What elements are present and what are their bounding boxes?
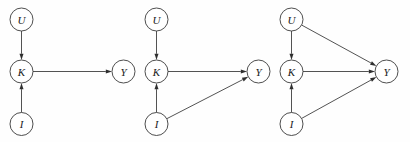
node-label-U: U: [153, 14, 162, 26]
node-I: I: [10, 113, 33, 136]
node-label-U: U: [288, 14, 297, 26]
node-label-K: K: [287, 66, 296, 78]
dag-panel-2: UKIY: [145, 8, 270, 136]
arrowhead-I-to-K: [290, 83, 294, 89]
edge-I-to-Y: [302, 77, 377, 118]
edge-U-to-Y: [302, 25, 377, 66]
edge-I-to-K: [290, 83, 294, 113]
node-U: U: [280, 8, 303, 31]
edge-U-to-K: [155, 31, 159, 60]
arrowhead-U-to-K: [290, 54, 294, 60]
edge-K-to-Y: [303, 70, 375, 74]
edge-K-to-Y: [168, 70, 247, 74]
node-Y: Y: [112, 60, 135, 83]
arrowhead-I-to-K: [20, 83, 24, 89]
arrowhead-I-to-Y: [242, 77, 248, 82]
arrowhead-K-to-Y: [106, 70, 112, 74]
edge-I-to-K: [20, 83, 24, 113]
arrowhead-K-to-Y: [369, 70, 375, 74]
node-label-K: K: [17, 66, 26, 78]
arrowhead-U-to-Y: [370, 61, 376, 66]
edge-I-to-K: [155, 83, 159, 113]
arrowhead-I-to-Y: [370, 77, 376, 82]
edge-K-to-Y: [33, 70, 112, 74]
arrowhead-U-to-K: [155, 54, 159, 60]
edge-U-to-K: [20, 31, 24, 60]
edge-U-to-K: [290, 31, 294, 60]
dag-svg-canvas: UKIYUKIYUKIY: [0, 0, 410, 142]
node-I: I: [280, 113, 303, 136]
arrowhead-K-to-Y: [241, 70, 247, 74]
node-U: U: [10, 8, 33, 31]
node-K: K: [10, 60, 33, 83]
arrowhead-U-to-K: [20, 54, 24, 60]
arrowhead-I-to-K: [155, 83, 159, 89]
dag-panel-3: UKIY: [280, 8, 398, 136]
node-label-K: K: [152, 66, 161, 78]
edge-I-to-Y: [167, 77, 249, 119]
node-I: I: [145, 113, 168, 136]
dag-panel-1: UKIY: [10, 8, 135, 136]
node-K: K: [145, 60, 168, 83]
node-K: K: [280, 60, 303, 83]
node-Y: Y: [375, 60, 398, 83]
dag-figure: UKIYUKIYUKIY: [0, 0, 410, 142]
node-U: U: [145, 8, 168, 31]
node-label-U: U: [18, 14, 27, 26]
node-Y: Y: [247, 60, 270, 83]
